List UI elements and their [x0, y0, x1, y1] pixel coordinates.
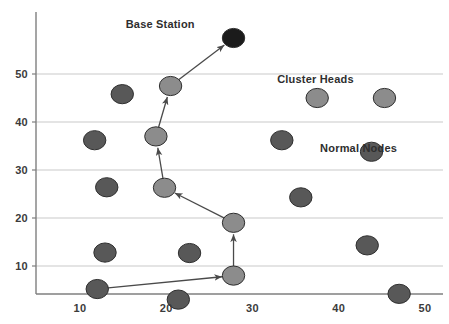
cluster-head-node-6 [306, 88, 328, 107]
x-axis-tick-label-10: 10 [74, 302, 87, 314]
base-station-node-1 [222, 28, 244, 47]
normal-node-3 [96, 178, 118, 197]
normal-node-11 [356, 236, 378, 255]
x-axis-tick-label-30: 30 [246, 302, 259, 314]
link-arrow-ch-to-ch-middle [158, 148, 163, 180]
link-arrow-ch-to-base-station [177, 45, 224, 81]
cluster-head-node-5 [222, 266, 244, 285]
normal-node-10 [290, 188, 312, 207]
annotation-cluster-heads: Cluster Heads [277, 73, 354, 85]
cluster-head-node-1 [159, 76, 181, 95]
normal-node-8 [271, 131, 293, 150]
cluster-head-node-2 [145, 127, 167, 146]
annotation-base-station: Base Station [126, 18, 195, 30]
annotation-normal-nodes: Normal Nodes [320, 142, 397, 154]
normal-node-4 [94, 243, 116, 262]
x-axis-tick-label-50: 50 [419, 302, 432, 314]
y-axis-tick-label-30: 30 [8, 164, 28, 176]
y-axis-tick-label-50: 50 [8, 68, 28, 80]
x-axis-tick-label-40: 40 [332, 302, 345, 314]
y-axis-tick-label-20: 20 [8, 212, 28, 224]
x-axis-tick-label-20: 20 [160, 302, 173, 314]
link-arrow-ch-to-ch-upper [158, 97, 167, 128]
cluster-head-node-4 [222, 213, 244, 232]
normal-node-6 [178, 243, 200, 262]
nodes-group [83, 28, 410, 309]
normal-node-5 [86, 279, 108, 298]
normal-node-12 [388, 284, 410, 303]
link-arrow-ch-to-ch-lower [175, 193, 226, 219]
y-axis-tick-label-10: 10 [8, 260, 28, 272]
cluster-head-node-3 [153, 178, 175, 197]
normal-node-2 [83, 131, 105, 150]
plot-canvas [0, 0, 449, 324]
link-arrow-node-to-ch-bottom [106, 277, 222, 288]
normal-node-1 [111, 85, 133, 104]
y-axis-tick-label-40: 40 [8, 116, 28, 128]
scatter-chart-figure: 10203040501020304050 Base StationCluster… [0, 0, 449, 324]
cluster-head-node-7 [373, 88, 395, 107]
